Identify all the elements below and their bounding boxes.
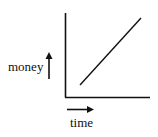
y-axis-label: money — [8, 60, 43, 73]
trend-line — [80, 18, 141, 85]
up-arrow-icon — [46, 52, 53, 79]
x-axis-label: time — [70, 116, 93, 129]
right-arrow-icon — [67, 106, 94, 113]
money-time-diagram: money time — [0, 0, 158, 137]
